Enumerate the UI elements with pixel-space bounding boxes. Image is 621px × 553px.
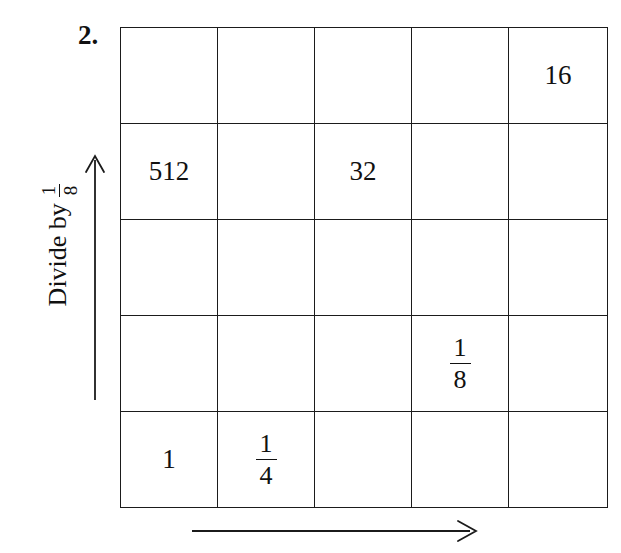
- grid-cell-content: [218, 28, 314, 123]
- grid-cell-r3c1[interactable]: [121, 220, 218, 316]
- grid-cell-r4c4[interactable]: 1 8: [412, 316, 509, 412]
- grid-cell-r4c3[interactable]: [315, 316, 412, 412]
- grid-cell-r1c1[interactable]: [121, 28, 218, 124]
- grid-cell-content: 16: [509, 28, 607, 123]
- grid-cell-r5c4[interactable]: [412, 412, 509, 508]
- y-axis-label: Divide by 1 8: [38, 125, 78, 365]
- grid-cell-content: [121, 316, 217, 411]
- grid-cell-r2c3[interactable]: 32: [315, 124, 412, 220]
- grid-cell-content: 512: [121, 124, 217, 219]
- problem-number: 2.: [78, 22, 98, 49]
- grid-cell-r5c2[interactable]: 1 4: [218, 412, 315, 508]
- grid-cell-content: [121, 220, 217, 315]
- grid-cell-content: [218, 220, 314, 315]
- grid-cell-content: 1 4: [218, 412, 314, 507]
- grid-cell-r1c5[interactable]: 16: [509, 28, 608, 124]
- grid-cell-content: [412, 220, 508, 315]
- grid-cell-r1c4[interactable]: [412, 28, 509, 124]
- fraction-numerator: 1: [256, 430, 277, 460]
- grid-cell-r4c2[interactable]: [218, 316, 315, 412]
- grid-cell-r1c2[interactable]: [218, 28, 315, 124]
- table-row: 1 8: [121, 316, 608, 412]
- fraction-denominator: 4: [256, 460, 277, 489]
- y-axis-fraction-numerator: 1: [39, 184, 60, 198]
- grid-cell-content: [509, 124, 607, 219]
- grid-cell-content: [315, 412, 411, 507]
- grid-cell-r4c1[interactable]: [121, 316, 218, 412]
- grid-cell-content: [315, 28, 411, 123]
- grid-cell-r2c2[interactable]: [218, 124, 315, 220]
- arrow-right-icon: [192, 518, 482, 544]
- y-axis-label-text: Divide by: [43, 203, 73, 306]
- arrow-up-icon: [82, 150, 108, 400]
- grid-cell-r3c4[interactable]: [412, 220, 509, 316]
- grid-cell-r2c1[interactable]: 512: [121, 124, 218, 220]
- grid-cell-r2c4[interactable]: [412, 124, 509, 220]
- table-row: 1 1 4: [121, 412, 608, 508]
- grid-cell-content: [509, 220, 607, 315]
- grid-cell-content: [509, 316, 607, 411]
- grid-cell-content: [412, 412, 508, 507]
- fraction-one-quarter: 1 4: [256, 430, 277, 490]
- grid-cell-content: [315, 316, 411, 411]
- grid-cell-content: [315, 220, 411, 315]
- grid-cell-content: 1 8: [412, 316, 508, 411]
- fraction-numerator: 1: [450, 334, 471, 364]
- grid-cell-r3c2[interactable]: [218, 220, 315, 316]
- grid-cell-r2c5[interactable]: [509, 124, 608, 220]
- grid-cell-content: [412, 124, 508, 219]
- grid-cell-content: [412, 28, 508, 123]
- grid-cell-content: [218, 316, 314, 411]
- table-row: 512 32: [121, 124, 608, 220]
- grid-cell-r5c3[interactable]: [315, 412, 412, 508]
- grid-cell-r4c5[interactable]: [509, 316, 608, 412]
- grid-cell-content: 32: [315, 124, 411, 219]
- grid-cell-content: [121, 28, 217, 123]
- grid-cell-content: [509, 412, 607, 507]
- grid-cell-content: 1: [121, 412, 217, 507]
- grid-cell-r3c5[interactable]: [509, 220, 608, 316]
- value-grid: 16 512 32: [120, 27, 608, 508]
- fraction-denominator: 8: [450, 364, 471, 393]
- table-row: 16: [121, 28, 608, 124]
- table-row: [121, 220, 608, 316]
- grid-cell-r1c3[interactable]: [315, 28, 412, 124]
- grid-cell-r5c5[interactable]: [509, 412, 608, 508]
- grid-cell-r5c1[interactable]: 1: [121, 412, 218, 508]
- grid-cell-r3c3[interactable]: [315, 220, 412, 316]
- fraction-one-eighth: 1 8: [450, 334, 471, 394]
- grid-cell-content: [218, 124, 314, 219]
- y-axis-fraction-denominator: 8: [60, 184, 80, 198]
- y-axis-label-fraction: 1 8: [39, 184, 80, 198]
